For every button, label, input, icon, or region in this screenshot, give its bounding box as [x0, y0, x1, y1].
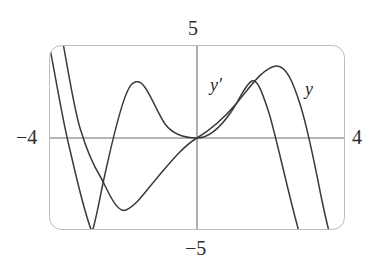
curve-label-y-prime: y′: [210, 76, 222, 94]
axis-label-xmin: −4: [16, 127, 37, 147]
axis-label-ymin: −5: [185, 238, 206, 258]
figure-container: 5 −4 4 −5 y′ y: [0, 0, 371, 271]
axis-label-xmax: 4: [352, 127, 362, 147]
axis-label-ymax: 5: [188, 18, 198, 38]
curve-label-y: y: [305, 80, 313, 98]
graph-plot: [0, 0, 371, 271]
